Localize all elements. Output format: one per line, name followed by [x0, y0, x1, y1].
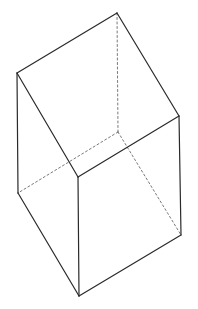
- edge-BC: [117, 13, 179, 116]
- edge-DF: [78, 177, 79, 296]
- edge-DA: [17, 73, 78, 177]
- edge-FG: [79, 235, 181, 296]
- edge-EF: [18, 193, 79, 296]
- edge-CD: [78, 116, 179, 177]
- hidden-edge-BH: [117, 13, 118, 132]
- visible-edges: [17, 13, 181, 296]
- edge-AE: [17, 73, 18, 193]
- edge-AB: [17, 13, 117, 73]
- cuboid-diagram: [0, 0, 198, 309]
- hidden-edges: [18, 13, 181, 235]
- edge-GC: [179, 116, 181, 235]
